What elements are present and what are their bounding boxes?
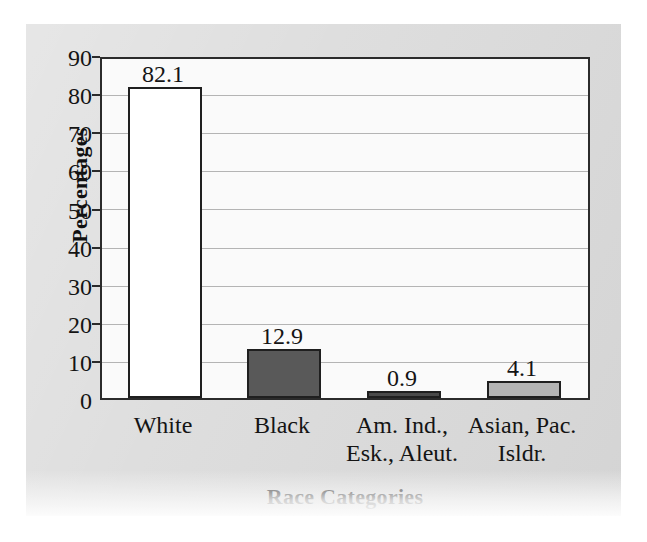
y-tick-mark-60 [92, 170, 100, 172]
plot-area [100, 57, 590, 400]
bar-value-label-american-indian: 0.9 [335, 366, 469, 390]
y-tick-label-80: 80 [40, 84, 92, 108]
y-tick-mark-40 [92, 247, 100, 249]
x-axis-title: Race Categories [100, 484, 590, 510]
bar-value-label-white: 82.1 [96, 62, 230, 86]
bar-value-label-black: 12.9 [215, 324, 349, 348]
y-tick-label-40: 40 [40, 237, 92, 261]
x-category-label-asian-pacific-islander: Asian, Pac. Isldr. [452, 412, 592, 468]
y-tick-label-0: 0 [40, 389, 92, 413]
y-tick-label-30: 30 [40, 275, 92, 299]
bar-black[interactable] [247, 349, 321, 398]
y-tick-label-20: 20 [40, 313, 92, 337]
x-category-label-black: Black [215, 412, 349, 440]
y-tick-label-10: 10 [40, 351, 92, 375]
x-category-label-american-indian: Am. Ind., Esk., Aleut. [333, 412, 471, 468]
y-tick-label-90: 90 [40, 46, 92, 70]
bar-asian-pacific-islander[interactable] [487, 381, 561, 398]
y-tick-label-50: 50 [40, 199, 92, 223]
y-tick-mark-80 [92, 94, 100, 96]
bar-american-indian[interactable] [367, 391, 441, 398]
bar-value-label-asian-pacific-islander: 4.1 [455, 356, 589, 380]
bar-white[interactable] [128, 87, 202, 398]
y-tick-mark-30 [92, 285, 100, 287]
y-tick-label-70: 70 [40, 122, 92, 146]
x-category-label-white: White [96, 412, 230, 440]
y-tick-mark-90 [92, 56, 100, 58]
y-tick-mark-70 [92, 132, 100, 134]
y-tick-mark-10 [92, 361, 100, 363]
y-tick-mark-50 [92, 209, 100, 211]
y-tick-label-60: 60 [40, 160, 92, 184]
chart-page: Percentages 90 80 70 60 50 40 30 20 10 0 [0, 0, 647, 542]
y-tick-mark-20 [92, 323, 100, 325]
